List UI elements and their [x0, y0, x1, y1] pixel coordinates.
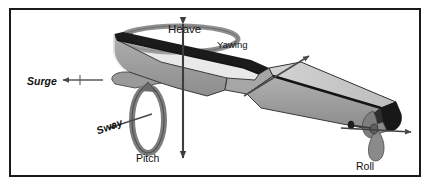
label-roll: Roll: [356, 161, 374, 172]
ship-hull: [112, 32, 402, 136]
ship-motion-diagram: [11, 10, 419, 175]
figure-frame: Heave Yawing Surge Sway Pitch Roll: [9, 8, 421, 177]
pitch-rotation-ring: [132, 82, 164, 153]
label-pitch: Pitch: [136, 153, 159, 164]
label-heave: Heave: [168, 24, 201, 36]
label-surge: Surge: [27, 76, 57, 87]
label-yawing: Yawing: [217, 40, 247, 50]
figure-root: Heave Yawing Surge Sway Pitch Roll: [0, 0, 433, 190]
